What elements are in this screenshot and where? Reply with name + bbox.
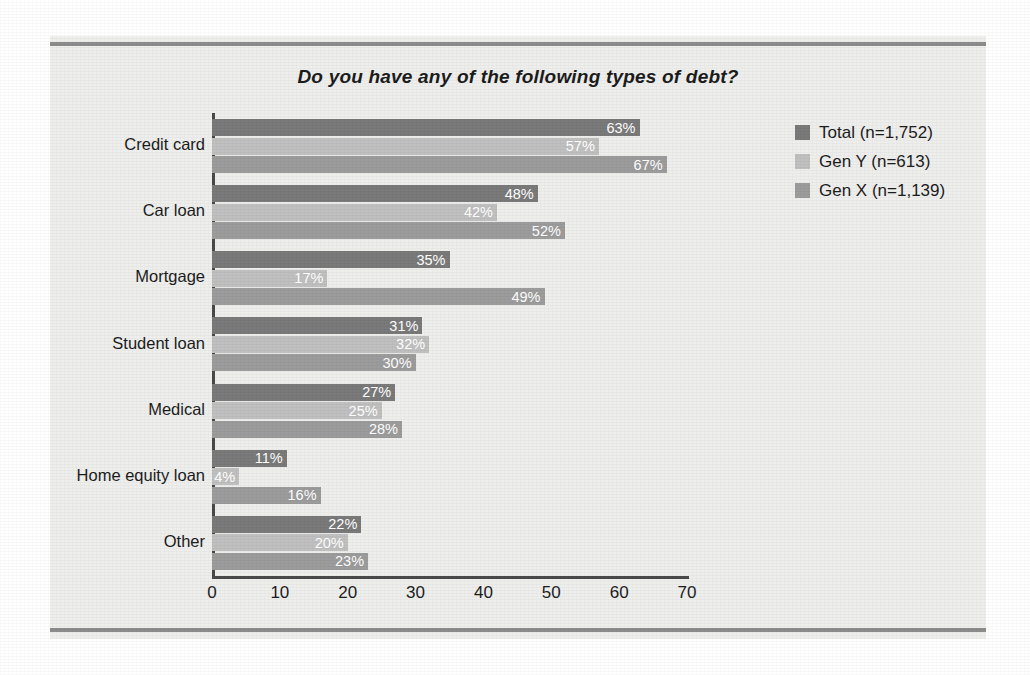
bar[interactable]: 67% bbox=[212, 156, 667, 173]
bar[interactable]: 25% bbox=[212, 402, 382, 419]
bar[interactable]: 30% bbox=[212, 354, 416, 371]
bar-value-label: 25% bbox=[349, 403, 378, 418]
chart-figure: Do you have any of the following types o… bbox=[0, 0, 1030, 675]
bar-value-label: 67% bbox=[634, 157, 663, 172]
bar-row: 27% bbox=[212, 384, 687, 401]
bar-value-label: 27% bbox=[362, 385, 391, 400]
x-axis-line bbox=[212, 576, 689, 579]
plot-area: 63%57%67%48%42%52%35%17%49%31%32%30%27%2… bbox=[212, 113, 687, 576]
legend-label: Gen X (n=1,139) bbox=[819, 181, 945, 201]
chart-legend: Total (n=1,752)Gen Y (n=613)Gen X (n=1,1… bbox=[795, 118, 1010, 205]
bar-value-label: 16% bbox=[288, 488, 317, 503]
bar-value-label: 35% bbox=[416, 253, 445, 268]
bar-row: 31% bbox=[212, 317, 687, 334]
bar-value-label: 23% bbox=[335, 554, 364, 569]
bar-row: 4% bbox=[212, 468, 687, 485]
bar-row: 22% bbox=[212, 516, 687, 533]
bar[interactable]: 48% bbox=[212, 185, 538, 202]
legend-swatch-icon bbox=[795, 183, 810, 198]
bar-group: 63%57%67% bbox=[212, 113, 687, 179]
x-axis-tick-label: 20 bbox=[338, 583, 357, 603]
bar[interactable]: 23% bbox=[212, 553, 368, 570]
bar-row: 42% bbox=[212, 204, 687, 221]
bar[interactable]: 63% bbox=[212, 119, 640, 136]
bar-value-label: 4% bbox=[214, 470, 235, 485]
x-axis-tick-label: 0 bbox=[207, 583, 216, 603]
bar-row: 67% bbox=[212, 156, 687, 173]
bar[interactable]: 17% bbox=[212, 270, 327, 287]
bar[interactable]: 20% bbox=[212, 534, 348, 551]
bar-row: 25% bbox=[212, 402, 687, 419]
bar-group: 48%42%52% bbox=[212, 179, 687, 245]
bar-row: 49% bbox=[212, 288, 687, 305]
x-axis-tick-label: 40 bbox=[474, 583, 493, 603]
bar[interactable]: 42% bbox=[212, 204, 497, 221]
y-axis-category-label: Mortgage bbox=[15, 267, 205, 286]
bar-value-label: 22% bbox=[328, 517, 357, 532]
bar-value-label: 31% bbox=[389, 319, 418, 334]
bar-row: 52% bbox=[212, 222, 687, 239]
bar-row: 48% bbox=[212, 185, 687, 202]
x-axis-tick-label: 10 bbox=[270, 583, 289, 603]
bar[interactable]: 11% bbox=[212, 450, 287, 467]
legend-swatch-icon bbox=[795, 154, 810, 169]
bar-row: 16% bbox=[212, 487, 687, 504]
bar-value-label: 63% bbox=[606, 120, 635, 135]
legend-label: Total (n=1,752) bbox=[819, 123, 933, 143]
chart-title: Do you have any of the following types o… bbox=[50, 66, 986, 88]
bar[interactable]: 31% bbox=[212, 317, 422, 334]
legend-item[interactable]: Gen Y (n=613) bbox=[795, 147, 1010, 176]
bar-value-label: 42% bbox=[464, 205, 493, 220]
bar-group: 22%20%23% bbox=[212, 510, 687, 576]
bar-row: 30% bbox=[212, 354, 687, 371]
bar-row: 57% bbox=[212, 138, 687, 155]
bar-value-label: 52% bbox=[532, 223, 561, 238]
bar[interactable]: 35% bbox=[212, 251, 450, 268]
bar-value-label: 48% bbox=[505, 186, 534, 201]
bar-value-label: 57% bbox=[566, 139, 595, 154]
bar[interactable]: 52% bbox=[212, 222, 565, 239]
bar[interactable]: 49% bbox=[212, 288, 545, 305]
bar-row: 63% bbox=[212, 119, 687, 136]
bar-row: 17% bbox=[212, 270, 687, 287]
bar-value-label: 11% bbox=[255, 451, 283, 466]
panel-rule-bottom bbox=[50, 628, 986, 632]
bar-value-label: 32% bbox=[396, 337, 425, 352]
x-axis-tick-label: 60 bbox=[610, 583, 629, 603]
y-axis-category-label: Student loan bbox=[15, 334, 205, 353]
y-axis-category-label: Credit card bbox=[15, 135, 205, 154]
bar-value-label: 30% bbox=[383, 356, 412, 371]
x-axis-tick-label: 30 bbox=[406, 583, 425, 603]
bar-row: 23% bbox=[212, 553, 687, 570]
bar[interactable]: 4% bbox=[212, 468, 239, 485]
bar[interactable]: 27% bbox=[212, 384, 395, 401]
bar[interactable]: 28% bbox=[212, 421, 402, 438]
panel-rule-top bbox=[50, 42, 986, 46]
bar-row: 20% bbox=[212, 534, 687, 551]
bar-group: 11%4%16% bbox=[212, 444, 687, 510]
legend-item[interactable]: Total (n=1,752) bbox=[795, 118, 1010, 147]
y-axis-category-label: Home equity loan bbox=[15, 466, 205, 485]
bar[interactable]: 22% bbox=[212, 516, 361, 533]
bar-group: 31%32%30% bbox=[212, 311, 687, 377]
y-axis-category-labels: Credit cardCar loanMortgageStudent loanM… bbox=[10, 113, 205, 576]
y-axis-category-label: Car loan bbox=[15, 201, 205, 220]
bar-row: 11% bbox=[212, 450, 687, 467]
bar-value-label: 28% bbox=[369, 422, 398, 437]
legend-item[interactable]: Gen X (n=1,139) bbox=[795, 176, 1010, 205]
bar-value-label: 17% bbox=[294, 271, 323, 286]
y-axis-category-label: Medical bbox=[15, 400, 205, 419]
bar-value-label: 49% bbox=[511, 290, 540, 305]
x-axis-tick-label: 50 bbox=[542, 583, 561, 603]
x-axis-tick-labels: 010203040506070 bbox=[212, 583, 689, 613]
legend-swatch-icon bbox=[795, 125, 810, 140]
bar[interactable]: 57% bbox=[212, 138, 599, 155]
bar[interactable]: 16% bbox=[212, 487, 321, 504]
legend-label: Gen Y (n=613) bbox=[819, 152, 930, 172]
bar[interactable]: 32% bbox=[212, 336, 429, 353]
x-axis-tick-label: 70 bbox=[678, 583, 697, 603]
bar-row: 28% bbox=[212, 421, 687, 438]
bar-row: 32% bbox=[212, 336, 687, 353]
y-axis-category-label: Other bbox=[15, 532, 205, 551]
bar-group: 35%17%49% bbox=[212, 245, 687, 311]
